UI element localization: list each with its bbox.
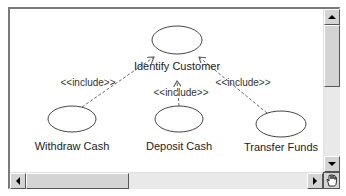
stereotype-include-left: <<include>> (60, 77, 115, 88)
arrow-right-icon (313, 177, 317, 185)
use-case-withdraw-cash[interactable] (48, 106, 96, 132)
label-transfer-funds: Transfer Funds (244, 141, 319, 153)
label-withdraw-cash: Withdraw Cash (35, 140, 110, 152)
scroll-right-button[interactable] (307, 173, 323, 189)
horizontal-scrollbar[interactable] (10, 172, 323, 189)
label-identify-customer: Identify Customer (134, 60, 221, 72)
hand-cursor-icon (325, 174, 338, 187)
diagram-canvas[interactable]: Identify Customer Withdraw Cash Deposit … (10, 9, 323, 172)
stereotype-include-center: <<include>> (153, 87, 208, 98)
arrow-down-icon (328, 162, 336, 166)
scroll-left-button[interactable] (10, 173, 26, 189)
use-case-identify-customer[interactable] (152, 26, 202, 54)
stereotype-include-right: <<include>> (215, 77, 270, 88)
horizontal-scroll-thumb[interactable] (26, 173, 129, 189)
scroll-down-button[interactable] (324, 156, 340, 172)
arrow-up-icon (328, 15, 336, 19)
use-case-deposit-cash[interactable] (155, 106, 203, 132)
scroll-up-button[interactable] (324, 9, 340, 25)
use-case-diagram: Identify Customer Withdraw Cash Deposit … (10, 9, 323, 172)
diagram-window: Identify Customer Withdraw Cash Deposit … (8, 7, 340, 189)
arrow-left-icon (16, 177, 20, 185)
label-deposit-cash: Deposit Cash (146, 140, 212, 152)
use-case-transfer-funds[interactable] (256, 111, 306, 137)
vertical-scrollbar[interactable] (323, 9, 340, 172)
vertical-scroll-thumb[interactable] (324, 25, 340, 87)
pan-tool-button[interactable] (323, 172, 340, 189)
